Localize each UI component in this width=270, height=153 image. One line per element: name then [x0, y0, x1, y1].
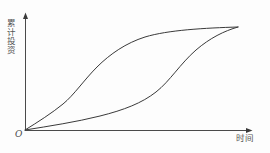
y-axis-arrow-icon: [23, 13, 28, 20]
x-axis-label: 时间: [236, 133, 254, 143]
origin-label: O: [15, 129, 22, 139]
chart-canvas: [0, 0, 270, 153]
y-axis-label: 累计投资: [2, 12, 15, 62]
chart-figure: 累计投资 时间 O: [0, 0, 270, 153]
